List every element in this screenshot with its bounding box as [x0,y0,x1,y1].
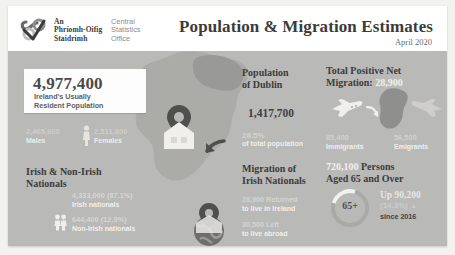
females-value: 2,511,800 [94,127,127,136]
poster-header: An Phríomh-Oifig Staidrimh Central Stati… [8,6,447,51]
immigrants-label: Immigrants [326,143,364,150]
immigrants-value: 85,400 [326,133,364,142]
globe-location-pin-icon [186,201,232,246]
org-english-line-3: Office [111,35,141,43]
ireland-map-icon [376,87,410,131]
male-female-icon [82,125,91,147]
population-caption: Ireland's Usually Resident Population [34,93,144,110]
net-migration-title-line-1: Total Positive Net [326,65,446,77]
net-migration-title: Total Positive Net Migration: 28,900 [326,65,446,88]
males-stat: 2,465,600 Males [26,127,60,144]
population-card: 4,977,400 Ireland's Usually Resident Pop… [24,69,146,113]
aged-value: 720,100 [326,161,359,172]
dublin-title: Population of Dublin [242,67,338,90]
dublin-percent: 28.5% [242,131,265,140]
curved-arrow-icon [204,139,226,159]
list-item: 644,400 (12.9%) Non-Irish nationals [72,215,177,232]
males-value: 2,465,600 [26,127,60,136]
cso-logo-icon [20,16,48,42]
returned-value: 28,900 Returned [242,195,342,204]
aged-change: Up 90,200 (14.3%) ▲ since 2016 [380,190,446,221]
emigrants-label: Emigrants [394,143,428,150]
infographic-poster: An Phríomh-Oifig Staidrimh Central Stati… [8,6,447,246]
aged-up-value: Up 90,200 [380,190,446,200]
non-irish-nationals-label: Non-Irish nationals [72,225,177,232]
net-migration-title-line-2-label: Migration: [326,77,373,88]
page-title: Population & Migration Estimates [179,17,433,37]
two-people-icon [54,214,67,231]
emigrants-value: 56,500 [394,133,428,142]
dublin-population-value: 1,417,700 [248,107,294,119]
page-subtitle: April 2020 [395,37,432,47]
left-value: 30,500 Left [242,220,342,229]
dublin-percent-label: of total population [242,140,303,147]
dublin-title-line-1: Population [242,67,338,79]
net-migration-illustration [326,87,444,131]
dublin-title-line-2: of Dublin [242,79,338,91]
sex-breakdown: 2,465,600 Males 2,511,800 Females [26,127,151,151]
nationals-title-line-2: Nationals [26,178,146,190]
net-migration-value: 28,900 [375,77,403,88]
irish-nationals-label: Irish nationals [72,201,177,208]
population-value: 4,977,400 [33,74,103,94]
non-irish-nationals-value: 644,400 (12.9%) [72,215,177,224]
returned-label: to live in Ireland [242,205,342,212]
arrow-up-icon: ▲ [410,202,417,209]
airplane-departing-icon [410,98,444,118]
list-item: 28,900 Returned to live in Ireland [242,195,342,212]
migration-irish-list: 28,900 Returned to live in Ireland 30,50… [242,195,342,245]
list-item: 30,500 Left to live abroad [242,220,342,237]
airplane-arriving-icon [330,98,364,118]
aged-since: since 2016 [380,212,446,221]
irish-nationals-value: 4,333,000 (87.1%) [72,191,177,200]
list-item: 4,333,000 (87.1%) Irish nationals [72,191,177,208]
home-location-pin-icon [158,103,200,151]
population-caption-line-2: Resident Population [34,102,144,111]
females-label: Females [94,137,127,144]
org-name-english: Central Statistics Office [111,18,141,43]
org-name-irish: An Phríomh-Oifig Staidrimh [54,18,102,43]
immigrants-stat: 85,400 Immigrants [326,133,364,150]
nationals-title-line-1: Irish & Non-Irish [26,166,146,178]
females-stat: 2,511,800 Females [94,127,127,144]
males-label: Males [26,137,60,144]
aged-title: 720,100 Persons Aged 65 and Over [326,161,444,184]
aged-up-percent: (14.3%) [380,201,408,210]
aged-up-percent-row: (14.3%) ▲ [380,201,446,210]
nationals-title: Irish & Non-Irish Nationals [26,166,146,189]
aged-title-rest: Persons [361,161,394,172]
org-irish-line-3: Staidrimh [54,35,102,43]
aged-title-line-2: Aged 65 and Over [326,173,444,185]
left-label: to live abroad [242,230,342,237]
emigrants-stat: 56,500 Emigrants [394,133,428,150]
infographic-body: 4,977,400 Ireland's Usually Resident Pop… [8,51,447,246]
nationals-list: 4,333,000 (87.1%) Irish nationals 644,40… [72,191,177,239]
curved-arrow-icon [366,103,379,114]
aged-ring-label: 65+ [331,200,369,211]
